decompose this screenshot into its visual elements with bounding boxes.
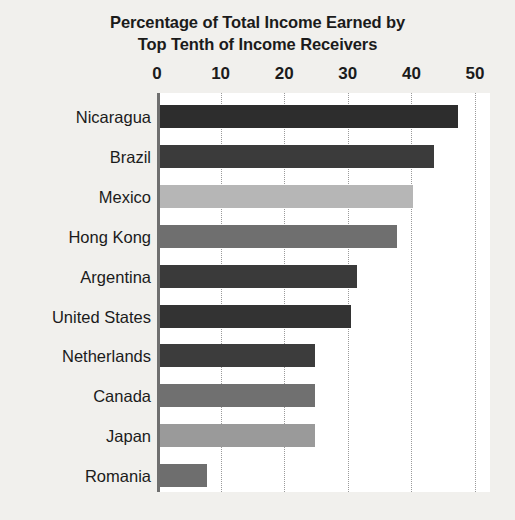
bar: [157, 105, 458, 128]
y-axis-category-label: Nicaragua: [3, 108, 151, 127]
bar: [157, 265, 357, 288]
bar: [157, 384, 315, 407]
y-axis-category-label: Hong Kong: [3, 228, 151, 247]
y-axis-category-label: United States: [3, 308, 151, 327]
y-axis-line: [157, 93, 160, 492]
y-axis-category-label: Netherlands: [3, 347, 151, 366]
y-axis-category-label: Mexico: [3, 188, 151, 207]
x-tick-label: 20: [275, 64, 294, 84]
bar: [157, 424, 315, 447]
bar: [157, 185, 413, 208]
bar: [157, 344, 315, 367]
y-axis-category-labels: NicaraguaBrazilMexicoHong KongArgentinaU…: [0, 93, 151, 492]
chart-container: Percentage of Total Income Earned by Top…: [0, 0, 515, 520]
bar: [157, 305, 351, 328]
x-tick-label: 30: [338, 64, 357, 84]
x-tick-label: 10: [211, 64, 230, 84]
bar: [157, 145, 434, 168]
y-axis-category-label: Brazil: [3, 148, 151, 167]
chart-title: Percentage of Total Income Earned by Top…: [0, 12, 515, 56]
plot-area: [157, 93, 490, 492]
x-axis-tick-labels: 01020304050: [0, 64, 515, 90]
bar: [157, 464, 207, 487]
y-axis-category-label: Japan: [3, 427, 151, 446]
bar: [157, 225, 397, 248]
x-tick-label: 0: [152, 64, 161, 84]
chart-title-line-1: Percentage of Total Income Earned by: [0, 12, 515, 34]
gridline: [475, 93, 476, 492]
x-tick-label: 40: [402, 64, 421, 84]
y-axis-category-label: Canada: [3, 387, 151, 406]
x-tick-label: 50: [466, 64, 485, 84]
y-axis-category-label: Romania: [3, 467, 151, 486]
y-axis-category-label: Argentina: [3, 268, 151, 287]
chart-title-line-2: Top Tenth of Income Receivers: [0, 34, 515, 56]
